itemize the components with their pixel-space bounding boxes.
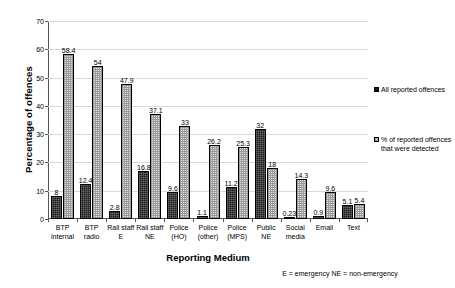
- x-axis-category-label-line: Email: [311, 224, 338, 233]
- bar: 37.1: [150, 114, 161, 219]
- y-axis-tick-label: 70: [36, 18, 44, 25]
- bar-value-label: 54: [94, 59, 102, 66]
- bar-value-label: 1.1: [197, 209, 207, 216]
- bar-value-label: 47.9: [120, 77, 134, 84]
- bar-value-label: 5.1: [343, 198, 353, 205]
- x-axis-tick-mark: [223, 219, 224, 222]
- bar: 11.2: [226, 187, 237, 219]
- x-axis-category-label: BTPinternal: [48, 224, 77, 241]
- x-axis-category-label-line: Rail staff: [136, 224, 163, 233]
- x-axis-category-label-line: NE: [136, 233, 163, 242]
- bar-groups: 858.412.4542.847.916.837.19.6331.126.211…: [48, 21, 368, 219]
- legend-entry-all-reported-offences: All reported offences: [374, 85, 445, 94]
- legend-entry-percent-detected: % of reported offences that were detecte…: [374, 135, 455, 153]
- bar-group: 0.2314.3: [281, 21, 310, 219]
- x-axis-tick-mark: [135, 219, 136, 222]
- x-axis-tick-mark: [310, 219, 311, 222]
- bar: 33: [179, 126, 190, 219]
- x-axis-tick-mark: [339, 219, 340, 222]
- bar: 12.4: [80, 184, 91, 219]
- y-axis-tick-label: 0: [40, 216, 44, 223]
- bar-value-label: 12.4: [79, 177, 93, 184]
- bar: 58.4: [63, 54, 74, 219]
- x-axis-category-label-line: internal: [49, 233, 76, 242]
- bar-value-label: 9.6: [326, 185, 336, 192]
- x-axis-tick-mark: [77, 219, 78, 222]
- y-axis-tick-label: 50: [36, 74, 44, 81]
- bar-group: 12.454: [77, 21, 106, 219]
- x-axis-tick-mark: [367, 219, 368, 222]
- x-axis-category-label-line: Text: [340, 224, 367, 233]
- y-axis-tick-label: 20: [36, 159, 44, 166]
- bar: 5.4: [354, 204, 365, 219]
- y-axis-tick-label: 10: [36, 187, 44, 194]
- x-axis-category-label-line: Social: [282, 224, 309, 233]
- x-axis-category-label-line: Police: [194, 224, 221, 233]
- x-axis-ticks: [48, 219, 368, 223]
- bar-group: 11.225.3: [223, 21, 252, 219]
- x-axis-category-label: Police(MPS): [223, 224, 252, 241]
- x-axis-category-label-line: BTP radio: [78, 224, 105, 241]
- x-axis-category-label: Rail staffNE: [135, 224, 164, 241]
- x-axis-category-label: Public NE: [252, 224, 281, 241]
- bar: 8: [51, 196, 62, 219]
- x-axis-title: Reporting Medium: [48, 252, 368, 263]
- x-axis-tick: [77, 219, 106, 223]
- plot-area: 010203040506070 858.412.4542.847.916.837…: [48, 21, 368, 219]
- bar: 9.6: [167, 192, 178, 219]
- legend-label: All reported offences: [381, 85, 445, 94]
- bar-value-label: 58.4: [62, 47, 76, 54]
- x-axis-category-labels: BTPinternalBTP radioRail staffERail staf…: [48, 224, 368, 241]
- x-axis-tick-mark: [164, 219, 165, 222]
- x-axis-category-label-line: media: [282, 233, 309, 242]
- bar-value-label: 26.2: [207, 138, 221, 145]
- bar-value-label: 2.8: [110, 204, 120, 211]
- x-axis-tick: [281, 219, 310, 223]
- x-axis-tick: [106, 219, 135, 223]
- bar: 2.8: [109, 211, 120, 219]
- legend-swatch-dark-icon: [374, 87, 379, 92]
- x-axis-category-label: Email: [310, 224, 339, 241]
- bar: 5.1: [342, 205, 353, 219]
- x-axis-category-label-line: Police: [165, 224, 192, 233]
- x-axis-tick: [135, 219, 164, 223]
- x-axis-tick: [48, 219, 77, 223]
- x-axis-category-label: Police(HO): [164, 224, 193, 241]
- bar-group: 2.847.9: [106, 21, 135, 219]
- bar-value-label: 11.2: [225, 180, 238, 187]
- bar-group: 858.4: [48, 21, 77, 219]
- bar-value-label: 9.6: [168, 185, 178, 192]
- x-axis-category-label-line: BTP: [49, 224, 76, 233]
- x-axis-category-label: BTP radio: [77, 224, 106, 241]
- x-axis-tick: [223, 219, 252, 223]
- bar-group: 9.633: [164, 21, 193, 219]
- y-axis-title: Percentage of offences: [23, 30, 34, 210]
- chart-legend: All reported offences % of reported offe…: [374, 21, 455, 219]
- bar-value-label: 18: [268, 161, 276, 168]
- x-axis-category-label-line: Rail staff: [107, 224, 134, 233]
- x-axis-category-label-line: (HO): [165, 233, 192, 242]
- bar-value-label: 37.1: [149, 107, 163, 114]
- bar-group: 16.837.1: [135, 21, 164, 219]
- bar-value-label: 33: [181, 119, 189, 126]
- bar: 18: [267, 168, 278, 219]
- x-axis-category-label: Rail staffE: [106, 224, 135, 241]
- bar-value-label: 14.3: [294, 172, 308, 179]
- bar-chart: Percentage of offences 010203040506070 8…: [0, 0, 455, 288]
- x-axis-category-label: Police(other): [193, 224, 222, 241]
- x-axis-tick: [310, 219, 339, 223]
- bar: 16.8: [138, 171, 149, 219]
- bar: 32: [255, 129, 266, 220]
- x-axis-category-label-line: E: [107, 233, 134, 242]
- x-axis-category-label-line: Public NE: [253, 224, 280, 241]
- x-axis-tick: [339, 219, 368, 223]
- x-axis-category-label: Socialmedia: [281, 224, 310, 241]
- bar: 25.3: [238, 147, 249, 219]
- bar: 9.6: [325, 192, 336, 219]
- x-axis-category-label-line: (other): [194, 233, 221, 242]
- x-axis-tick: [164, 219, 193, 223]
- x-axis-category-label-line: Police: [224, 224, 251, 233]
- x-axis-tick: [252, 219, 281, 223]
- bar-value-label: 25.3: [236, 140, 250, 147]
- y-axis-tick-label: 60: [36, 46, 44, 53]
